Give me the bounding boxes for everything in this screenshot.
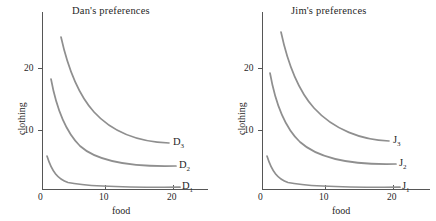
dan-curve-d3 (61, 37, 169, 143)
dan-curve-label-d1: D1 (182, 180, 193, 194)
dan-yticklabel-20: 20 (24, 63, 34, 73)
jim-curve-label-j1: J1 (402, 180, 410, 194)
jim-yticklabel-20: 20 (244, 63, 254, 73)
jim-curve-label-j2: J2 (399, 157, 407, 171)
indifference-curves-figure: Dan's preferences 0 10 20 10 20 food clo… (0, 0, 436, 221)
dan-xticklabel-0: 0 (38, 192, 43, 202)
jim-xticklabel-20: 20 (387, 192, 397, 202)
jim-curve-j2 (270, 73, 396, 164)
jim-curve-j1 (267, 156, 400, 187)
dan-panel-title: Dan's preferences (72, 5, 150, 16)
jim-x-axis-label: food (332, 205, 350, 216)
jim-xticklabel-0: 0 (258, 192, 263, 202)
dan-curve-d2 (51, 79, 176, 166)
jim-xticklabel-10: 10 (319, 192, 329, 202)
jim-curve-j3 (281, 32, 389, 141)
dan-xticklabel-20: 20 (167, 192, 177, 202)
dan-y-axis-label: clothing (16, 102, 27, 135)
jim-panel-title: Jim's preferences (291, 5, 367, 16)
chart-panel-dan: Dan's preferences 0 10 20 10 20 food clo… (0, 0, 218, 221)
dan-curve-label-d3: D3 (173, 136, 184, 150)
dan-x-axis-label: food (112, 205, 130, 216)
jim-curve-label-j3: J3 (393, 134, 401, 148)
chart-panel-jim: Jim's preferences 0 10 20 10 20 food clo… (218, 0, 436, 221)
dan-xticklabel-10: 10 (99, 192, 109, 202)
jim-y-axis-label: clothing (236, 102, 247, 135)
dan-curve-label-d2: D2 (179, 159, 190, 173)
